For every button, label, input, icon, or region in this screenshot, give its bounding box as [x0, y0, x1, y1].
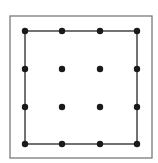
grid-dot-r1-c1	[59, 66, 65, 72]
grid-dot-r0-c2	[97, 28, 103, 34]
grid-dot-r3-c0	[22, 141, 28, 147]
grid-dot-r3-c1	[59, 141, 65, 147]
grid-dot-r1-c2	[97, 66, 103, 72]
drawn-square	[25, 31, 137, 144]
grid-dot-r0-c0	[22, 28, 28, 34]
grid-dot-r2-c1	[59, 104, 65, 110]
geoboard-diagram	[0, 0, 158, 163]
grid-dot-r2-c2	[97, 104, 103, 110]
grid-dot-r0-c3	[134, 28, 140, 34]
grid-dot-r2-c0	[22, 104, 28, 110]
grid-dot-r3-c2	[97, 141, 103, 147]
dot-grid	[22, 28, 140, 147]
grid-dot-r3-c3	[134, 141, 140, 147]
grid-dot-r0-c1	[59, 28, 65, 34]
grid-dot-r1-c0	[22, 66, 28, 72]
grid-dot-r2-c3	[134, 104, 140, 110]
grid-dot-r1-c3	[134, 66, 140, 72]
outer-frame	[10, 16, 152, 158]
